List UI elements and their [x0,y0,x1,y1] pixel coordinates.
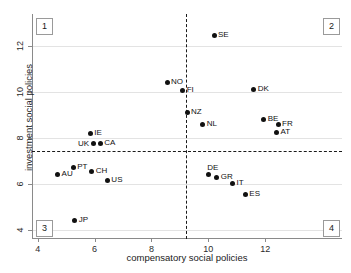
data-point-nl[interactable] [200,122,205,127]
gridline-y-4 [32,230,342,231]
data-point-be[interactable] [261,117,266,122]
quadrant-label-2: 2 [323,18,340,35]
gridline-y-12 [32,46,342,47]
quadrant-label-3: 3 [36,220,53,237]
data-point-es[interactable] [243,192,248,197]
vertical-reference-line [186,14,187,239]
data-point-label-us: US [111,176,122,184]
data-point-label-nl: NL [207,120,217,128]
data-point-label-ca: CA [104,139,115,147]
data-point-de[interactable] [206,172,211,177]
x-axis-title: compensatory social policies [32,252,342,263]
data-point-ch[interactable] [89,169,94,174]
data-point-label-nz: NZ [191,108,202,116]
data-point-label-de: DE [207,164,218,172]
data-point-label-se: SE [218,31,229,39]
y-tick-label-4: 4 [15,227,25,232]
data-point-label-jp: JP [79,216,88,224]
data-point-label-at: AT [281,128,291,136]
data-point-no[interactable] [165,80,170,85]
data-point-se[interactable] [212,33,217,38]
data-point-ie[interactable] [88,131,93,136]
data-point-it[interactable] [230,181,235,186]
data-point-jp[interactable] [72,218,77,223]
data-point-gr[interactable] [214,175,219,180]
data-point-label-dk: DK [258,85,269,93]
data-point-label-fi: FI [187,86,194,94]
data-point-uk[interactable] [91,141,96,146]
x-tick-mark-4 [38,238,39,242]
data-point-label-it: IT [237,179,244,187]
data-point-label-au: AU [62,170,73,178]
x-tick-mark-10 [208,238,209,242]
data-point-label-ie: IE [94,129,102,137]
data-point-label-gr: GR [221,173,233,181]
y-tick-mark-4 [28,230,32,231]
horizontal-reference-line [32,151,342,152]
data-point-fr[interactable] [276,122,281,127]
data-point-us[interactable] [105,178,110,183]
plot-area: 4681012 4681012 SENOFIDKNZNLBEFRATIEUKCA… [32,14,342,239]
quadrant-label-1: 1 [36,18,53,35]
data-point-label-pt: PT [77,163,87,171]
x-tick-mark-8 [151,238,152,242]
y-axis-title: investment social policies [23,38,34,198]
data-point-label-ch: CH [96,167,108,175]
x-axis-line [32,238,342,239]
data-point-label-no: NO [171,78,183,86]
data-point-label-es: ES [249,190,260,198]
data-point-label-uk: UK [78,140,89,148]
data-point-at[interactable] [274,130,279,135]
data-point-ca[interactable] [98,141,103,146]
data-point-nz[interactable] [185,110,190,115]
x-tick-mark-6 [95,238,96,242]
gridline-y-6 [32,184,342,185]
scatter-plot-figure: 4681012 4681012 SENOFIDKNZNLBEFRATIEUKCA… [0,0,351,273]
data-point-au[interactable] [55,172,60,177]
x-tick-mark-12 [265,238,266,242]
quadrant-label-4: 4 [323,220,340,237]
